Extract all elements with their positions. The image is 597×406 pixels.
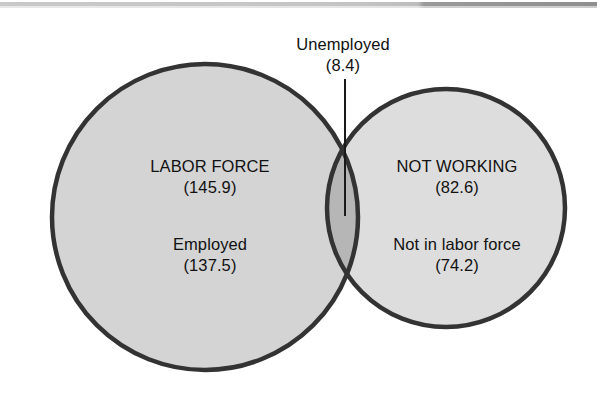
label-not-in-labor-force-line2: (74.2) [357, 255, 557, 276]
label-not-working: NOT WORKING (82.6) [362, 156, 552, 199]
label-not-working-line1: NOT WORKING [362, 156, 552, 177]
label-not-working-line2: (82.6) [362, 177, 552, 198]
venn-diagram-figure: Unemployed (8.4) LABOR FORCE (145.9) Emp… [0, 0, 597, 406]
label-unemployed: Unemployed (8.4) [248, 34, 438, 77]
label-employed-line2: (137.5) [115, 255, 305, 276]
label-unemployed-line2: (8.4) [248, 55, 438, 76]
label-employed: Employed (137.5) [115, 234, 305, 277]
label-labor-force-line1: LABOR FORCE [115, 156, 305, 177]
label-not-in-labor-force: Not in labor force (74.2) [357, 234, 557, 277]
label-labor-force: LABOR FORCE (145.9) [115, 156, 305, 199]
label-labor-force-line2: (145.9) [115, 177, 305, 198]
label-employed-line1: Employed [115, 234, 305, 255]
label-unemployed-line1: Unemployed [248, 34, 438, 55]
label-not-in-labor-force-line1: Not in labor force [357, 234, 557, 255]
